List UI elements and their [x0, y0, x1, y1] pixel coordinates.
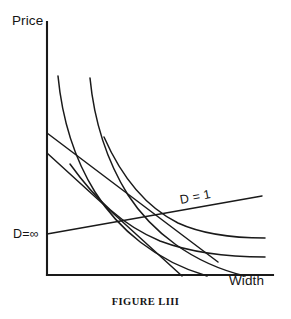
line-d-equals-one	[47, 196, 262, 234]
y-axis-label: Price	[12, 14, 43, 28]
x-axis-label: Width	[229, 274, 264, 288]
curve-isoquant-steep-left	[58, 76, 207, 276]
annotation-d-infinity: D=∞	[13, 228, 39, 241]
curve-isoquant-steep-right	[90, 78, 245, 276]
figure-lii-root: Price Width D=∞ D = 1 FIGURE LIII	[0, 0, 291, 319]
curve-isoquant-flat-lower	[70, 164, 265, 257]
chart-canvas	[0, 0, 291, 319]
figure-caption: FIGURE LIII	[0, 296, 291, 307]
